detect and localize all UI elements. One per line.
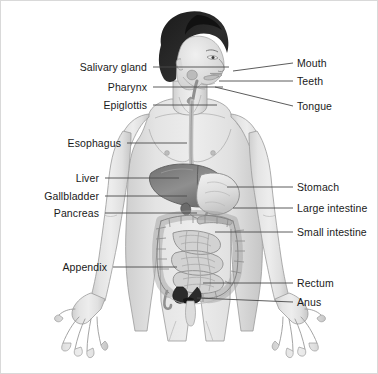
nipple-left <box>165 151 170 156</box>
label-small-intestine: Small intestine <box>297 227 367 238</box>
label-mouth: Mouth <box>297 58 327 69</box>
label-salivary-gland: Salivary gland <box>80 62 147 73</box>
label-teeth: Teeth <box>297 76 323 87</box>
label-rectum: Rectum <box>297 278 334 289</box>
label-esophagus: Esophagus <box>68 138 121 149</box>
label-epiglottis: Epiglottis <box>103 100 147 111</box>
label-pancreas: Pancreas <box>54 208 99 219</box>
hand-left <box>55 293 108 358</box>
small-intestine-organ <box>172 231 224 294</box>
label-appendix: Appendix <box>62 262 107 273</box>
label-liver: Liver <box>76 173 99 184</box>
label-gallbladder: Gallbladder <box>44 191 99 202</box>
anatomy-diagram: Salivary glandPharynxEpiglottisEsophagus… <box>0 0 378 374</box>
label-anus: Anus <box>297 297 321 308</box>
salivary-gland-organ <box>187 70 197 80</box>
leader-line-tongue <box>215 87 293 106</box>
label-stomach: Stomach <box>297 182 339 193</box>
label-pharynx: Pharynx <box>108 82 147 93</box>
pupil <box>212 56 215 59</box>
leader-line-mouth <box>233 63 293 71</box>
groin <box>186 301 196 326</box>
label-large-intestine: Large intestine <box>297 203 367 214</box>
nipple-right <box>211 151 216 156</box>
label-tongue: Tongue <box>297 101 332 112</box>
face <box>177 36 224 90</box>
